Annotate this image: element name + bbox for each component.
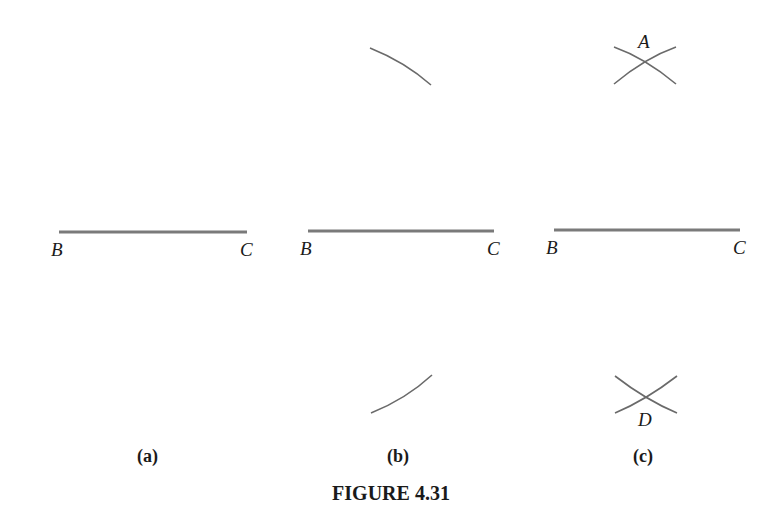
upper-arc-right-c bbox=[614, 47, 676, 84]
panel-b-label: (b) bbox=[387, 446, 409, 467]
panel-c: B C A D (c) bbox=[546, 31, 746, 467]
lower-arc-right-c bbox=[615, 376, 677, 413]
point-b-label-b: B bbox=[300, 238, 312, 259]
upper-arc-left-c bbox=[614, 47, 676, 84]
figure-caption: FIGURE 4.31 bbox=[332, 482, 450, 504]
panel-a-label: (a) bbox=[137, 446, 158, 467]
panel-b: B C (b) bbox=[300, 48, 500, 467]
lower-arc-left-c bbox=[615, 376, 677, 413]
panel-c-label: (c) bbox=[633, 446, 653, 467]
point-a-label: A bbox=[636, 31, 650, 52]
lower-arc-b bbox=[371, 375, 432, 413]
upper-arc-b bbox=[370, 48, 431, 85]
figure-4-31: B C (a) B C (b) B C A D (c) FIGURE 4.31 bbox=[0, 0, 782, 516]
point-c-label-a: C bbox=[240, 239, 253, 260]
point-d-label: D bbox=[637, 409, 652, 430]
point-b-label-a: B bbox=[51, 239, 63, 260]
point-c-label-b: C bbox=[487, 238, 500, 259]
point-b-label-c: B bbox=[546, 237, 558, 258]
point-c-label-c: C bbox=[733, 237, 746, 258]
panel-a: B C (a) bbox=[51, 232, 253, 467]
